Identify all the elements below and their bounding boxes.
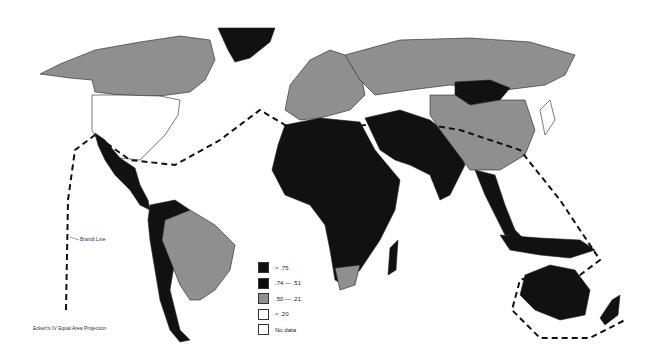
legend-swatch	[258, 293, 269, 304]
projection-label: Eckert's IV Equal Area Projection	[33, 325, 106, 331]
legend-swatch	[258, 278, 269, 289]
legend-swatch	[258, 324, 269, 335]
region-greenland	[218, 28, 275, 62]
legend-label: No data	[275, 327, 296, 333]
legend-label: .50 — .21	[275, 296, 301, 302]
world-map	[0, 0, 648, 355]
region-southeast-asia	[475, 170, 525, 240]
region-new-zealand	[600, 295, 620, 325]
legend-label: .74 — .51	[275, 280, 301, 286]
legend-label: > .75	[275, 265, 289, 271]
region-madagascar	[388, 240, 398, 275]
region-brazil	[162, 210, 235, 300]
legend-item: < .20	[258, 307, 301, 323]
legend-item: > .75	[258, 260, 301, 276]
region-japan	[540, 100, 555, 135]
region-canada	[40, 36, 215, 96]
legend-item: .74 — .51	[258, 276, 301, 292]
legend-swatch	[258, 262, 269, 273]
legend-swatch	[258, 309, 269, 320]
map-legend: > .75 .74 — .51 .50 — .21 < .20 No data	[258, 260, 301, 338]
region-australia	[520, 265, 590, 320]
legend-item: .50 — .21	[258, 291, 301, 307]
brandt-line-pointer	[70, 237, 79, 240]
brandt-line-label: Brandt Line	[80, 236, 106, 242]
region-indonesia	[500, 235, 595, 258]
legend-label: < .20	[275, 311, 289, 317]
legend-item: No data	[258, 322, 301, 338]
region-south-africa	[335, 265, 360, 290]
